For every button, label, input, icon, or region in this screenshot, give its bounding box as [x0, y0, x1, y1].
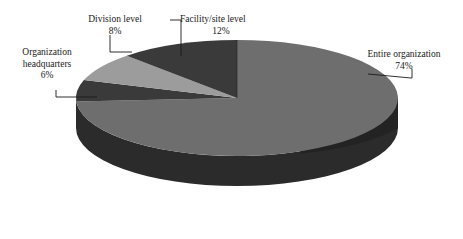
- pie-top-face-group: [76, 40, 398, 156]
- slice-label-facility-site-level: Facility/site level 12%: [180, 14, 276, 37]
- slice-label-division-level-percent: 8%: [72, 26, 158, 38]
- slice-label-entire-organization-percent: 74%: [352, 61, 456, 73]
- leader-line-division-level: [110, 35, 132, 52]
- pie-chart-figure: Division level 8% Facility/site level 12…: [0, 0, 463, 239]
- slice-label-organization-headquarters-percent: 6%: [6, 70, 88, 82]
- slice-label-facility-site-level-name: Facility/site level: [180, 14, 246, 24]
- slice-label-division-level: Division level 8%: [72, 14, 158, 37]
- slice-label-entire-organization: Entire organization 74%: [352, 49, 456, 72]
- slice-label-facility-site-level-percent: 12%: [180, 26, 262, 38]
- slice-label-division-level-name: Division level: [88, 14, 142, 24]
- slice-label-organization-headquarters: Organization headquarters 6%: [6, 47, 88, 82]
- slice-label-organization-headquarters-line2: headquarters: [6, 59, 88, 71]
- slice-label-entire-organization-name: Entire organization: [368, 49, 441, 59]
- slice-label-organization-headquarters-line1: Organization: [22, 47, 71, 57]
